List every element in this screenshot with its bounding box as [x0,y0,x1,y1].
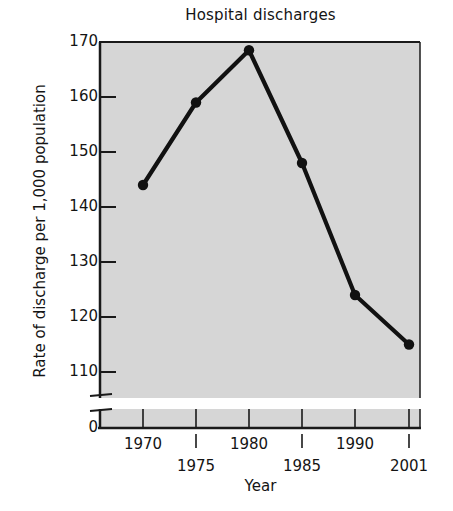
data-point-marker [138,180,148,190]
data-point-marker [191,97,201,107]
data-point-marker [244,45,254,55]
plot-area [0,0,453,511]
plot-background-lower [100,409,420,428]
data-point-marker [350,290,360,300]
plot-background-upper [100,42,420,398]
chart-figure: Hospital discharges Rate of discharge pe… [0,0,453,511]
data-point-marker [404,339,414,349]
data-point-marker [297,158,307,168]
